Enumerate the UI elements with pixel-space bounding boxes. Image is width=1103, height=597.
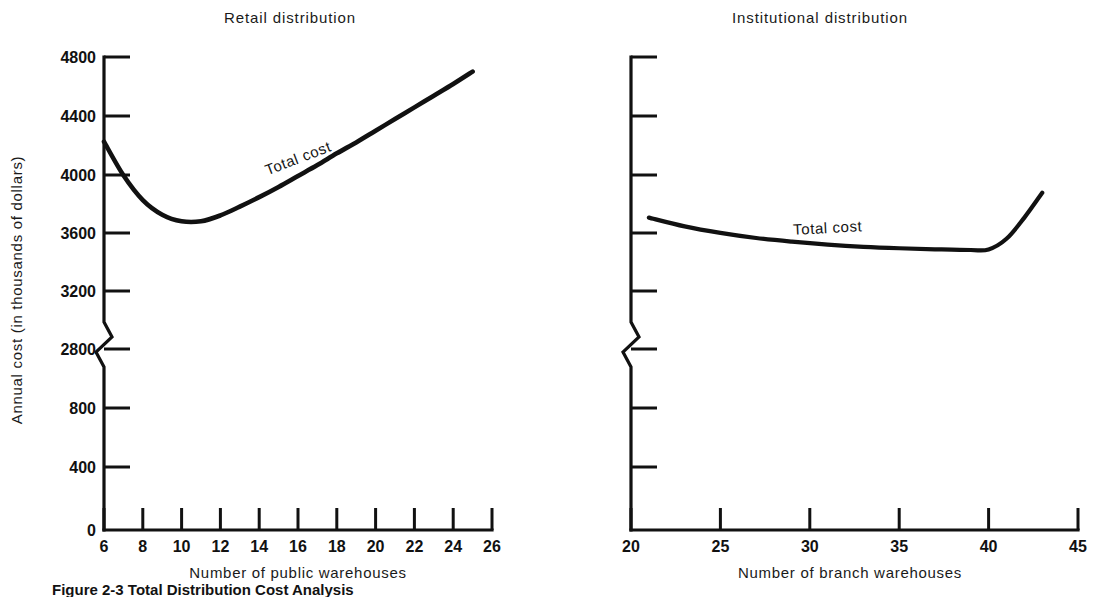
x-axis-label-left: Number of public warehouses (189, 564, 406, 581)
y-tick-label: 400 (69, 459, 96, 476)
y-tick-label: 4800 (60, 49, 96, 66)
series-label-right: Total cost (793, 217, 863, 238)
y-tick-labels-left: 4800 4400 4000 3600 3200 2800 800 400 0 (60, 49, 96, 539)
x-tick-label: 25 (712, 538, 730, 555)
x-tick-label: 26 (483, 538, 501, 555)
y-tick-label: 4400 (60, 108, 96, 125)
panel-title-right: Institutional distribution (732, 9, 908, 26)
x-tick-label: 12 (212, 538, 230, 555)
x-tick-labels-right: 20 25 30 35 40 45 (622, 538, 1087, 555)
y-axis-line-right (623, 57, 639, 530)
y-tick-label: 0 (87, 522, 96, 539)
y-axis-label: Annual cost (in thousands of dollars) (8, 156, 25, 425)
x-ticks-left (104, 508, 492, 530)
x-tick-label: 8 (138, 538, 147, 555)
y-axis-line-left (96, 57, 112, 530)
y-ticks-right (631, 57, 657, 467)
panel-title-left: Retail distribution (224, 9, 356, 26)
y-tick-label: 800 (69, 400, 96, 417)
x-tick-label: 16 (289, 538, 307, 555)
x-tick-label: 30 (801, 538, 819, 555)
x-ticks-right (631, 508, 1078, 530)
y-ticks-left (104, 57, 130, 467)
x-tick-label: 45 (1069, 538, 1087, 555)
x-tick-label: 22 (406, 538, 424, 555)
x-tick-label: 18 (328, 538, 346, 555)
x-tick-labels-left: 6 8 10 12 14 16 18 20 22 24 26 (100, 538, 501, 555)
figure-caption: Figure 2-3 Total Distribution Cost Analy… (52, 581, 354, 597)
y-tick-label: 3600 (60, 225, 96, 242)
x-tick-label: 40 (980, 538, 998, 555)
x-tick-label: 20 (367, 538, 385, 555)
y-tick-label: 4000 (60, 167, 96, 184)
x-tick-label: 14 (250, 538, 268, 555)
x-tick-label: 6 (100, 538, 109, 555)
series-label-left: Total cost (263, 137, 334, 178)
figure-container: Retail distribution Annual cost (in thou… (0, 0, 1103, 597)
panel-retail-distribution: Retail distribution Annual cost (in thou… (8, 9, 501, 581)
x-tick-label: 10 (173, 538, 191, 555)
x-tick-label: 20 (622, 538, 640, 555)
y-tick-label: 3200 (60, 283, 96, 300)
panel-institutional-distribution: Institutional distribution (622, 9, 1087, 581)
x-tick-label: 24 (444, 538, 462, 555)
x-tick-label: 35 (890, 538, 908, 555)
y-tick-label: 2800 (60, 341, 96, 358)
chart-canvas: Retail distribution Annual cost (in thou… (0, 0, 1103, 597)
curve-total-cost-left (104, 72, 473, 222)
x-axis-label-right: Number of branch warehouses (738, 564, 962, 581)
